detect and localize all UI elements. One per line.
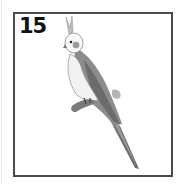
cockatiel-illustration [15,14,171,175]
left-edge-divider [1,0,2,184]
illustration-card: 15 [13,12,173,177]
